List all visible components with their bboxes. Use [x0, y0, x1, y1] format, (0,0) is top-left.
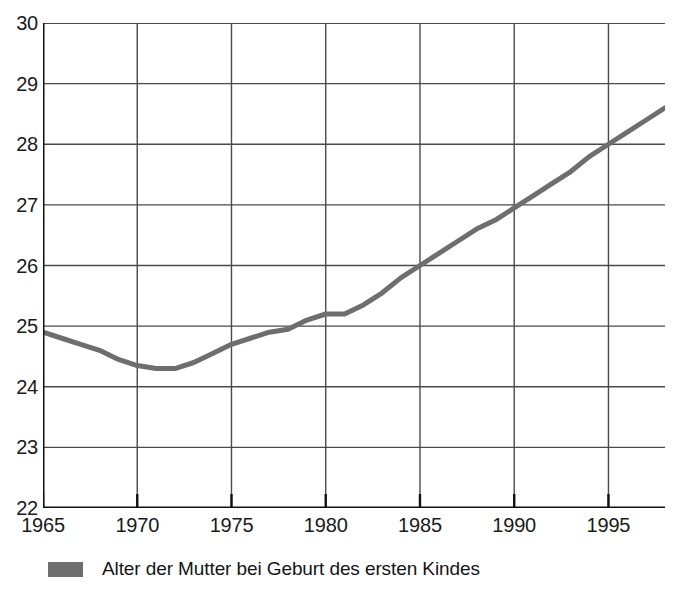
- x-tick-label: 1995: [587, 514, 631, 537]
- y-tick-label: 24: [0, 375, 38, 398]
- y-tick-label: 29: [0, 72, 38, 95]
- chart-figure: 222324252627282930 196519701975198019851…: [0, 0, 680, 598]
- chart-legend: Alter der Mutter bei Geburt des ersten K…: [48, 558, 480, 580]
- y-tick-label: 23: [0, 436, 38, 459]
- x-tick-label: 1975: [210, 514, 254, 537]
- y-tick-label: 26: [0, 254, 38, 277]
- y-tick-label: 30: [0, 12, 38, 35]
- y-tick-label: 27: [0, 193, 38, 216]
- x-axis-tick-labels: 1965197019751980198519901995: [0, 514, 680, 544]
- plot-svg: [43, 23, 665, 508]
- x-axis-major-ticks: [43, 494, 608, 508]
- x-tick-label: 1970: [115, 514, 159, 537]
- x-tick-label: 1990: [492, 514, 536, 537]
- series-line-alter-der-mutter: [43, 108, 665, 369]
- horizontal-gridlines: [43, 23, 665, 447]
- y-tick-label: 28: [0, 133, 38, 156]
- legend-swatch-icon: [48, 562, 83, 577]
- plot-area: [43, 23, 665, 508]
- x-tick-label: 1980: [304, 514, 348, 537]
- y-axis-tick-labels: 222324252627282930: [0, 0, 40, 598]
- x-tick-label: 1985: [398, 514, 442, 537]
- legend-item-label: Alter der Mutter bei Geburt des ersten K…: [102, 558, 480, 580]
- x-tick-label: 1965: [21, 514, 65, 537]
- y-tick-label: 25: [0, 315, 38, 338]
